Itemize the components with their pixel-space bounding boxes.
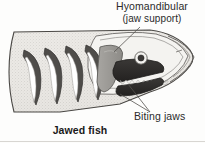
label-hyomandibular-sub: (jaw support) [103,13,201,25]
label-hyomandibular: Hyomandibular (jaw support) [103,1,201,24]
label-biting-jaws: Biting jaws [134,110,185,122]
label-hyomandibular-main: Hyomandibular [116,0,188,12]
bottom-divider [0,141,205,142]
eye [135,52,147,64]
figure-caption: Jawed fish [0,124,160,136]
jawed-fish-figure: Hyomandibular (jaw support) Biting jaws … [0,0,205,143]
